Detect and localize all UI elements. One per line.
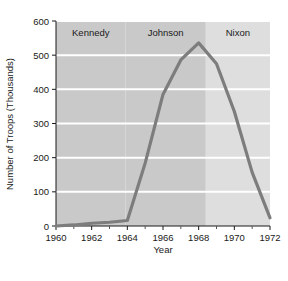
x-tick-label-1972: 1972 [259, 232, 280, 243]
x-tick-label-1962: 1962 [81, 232, 102, 243]
y-tick-label-500: 500 [33, 50, 49, 61]
x-axis-title: Year [153, 244, 172, 255]
troop-levels-chart: 0100200300400500600 19601962196419661968… [0, 0, 288, 281]
chart-svg: 0100200300400500600 19601962196419661968… [0, 0, 288, 281]
y-tick-label-200: 200 [33, 152, 49, 163]
x-axis-ticks [56, 226, 270, 230]
y-tick-label-600: 600 [33, 16, 49, 27]
era-label-johnson: Johnson [148, 27, 184, 38]
x-tick-label-1966: 1966 [152, 232, 173, 243]
era-label-kennedy: Kennedy [72, 27, 110, 38]
y-tick-label-100: 100 [33, 186, 49, 197]
y-axis-title: Number of Troops (Thousands) [4, 58, 15, 190]
era-label-nixon: Nixon [226, 27, 250, 38]
x-tick-label-1970: 1970 [224, 232, 245, 243]
x-axis-tick-labels: 1960196219641966196819701972 [45, 232, 280, 243]
y-tick-label-0: 0 [44, 221, 49, 232]
y-tick-label-400: 400 [33, 84, 49, 95]
y-axis-ticks [52, 21, 56, 226]
x-tick-label-1968: 1968 [188, 232, 209, 243]
y-tick-label-300: 300 [33, 118, 49, 129]
x-tick-label-1960: 1960 [45, 232, 66, 243]
x-tick-label-1964: 1964 [117, 232, 138, 243]
y-axis-tick-labels: 0100200300400500600 [33, 16, 49, 232]
